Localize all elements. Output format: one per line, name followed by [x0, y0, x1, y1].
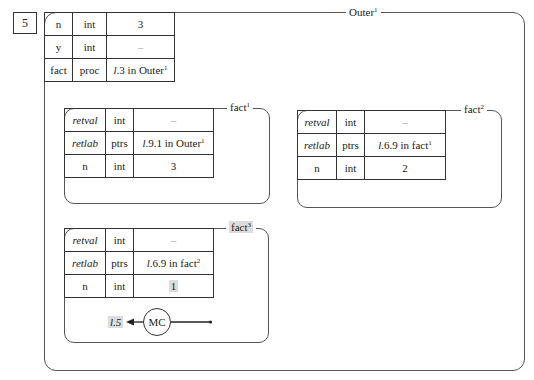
var-value: l.6.9 in fact1	[365, 134, 446, 157]
var-type: ptrs	[337, 134, 365, 157]
var-name: retlab	[65, 252, 106, 275]
var-value: 3	[134, 155, 214, 178]
frame-fact1-table: retval int – retlab ptrs l.9.1 in Outer1…	[64, 108, 214, 178]
var-type: int	[73, 36, 107, 59]
var-value: l.3 in Outer1	[107, 59, 175, 82]
var-name: y	[45, 36, 73, 59]
frame-fact3-table: retval int – retlab ptrs l.6.9 in fact2 …	[64, 228, 214, 298]
frame-fact2-table: retval int – retlab ptrs l.6.9 in fact1 …	[297, 110, 446, 180]
var-name: retval	[65, 229, 106, 252]
step-number: 5	[22, 16, 28, 31]
return-label: l.5	[108, 315, 123, 329]
table-row: fact proc l.3 in Outer1	[45, 59, 175, 82]
step-number-box: 5	[13, 12, 37, 34]
var-type: int	[106, 109, 134, 132]
var-value: l.9.1 in Outer1	[134, 132, 214, 155]
var-type: ptrs	[106, 252, 134, 275]
var-value: 2	[365, 157, 446, 180]
var-name: retval	[298, 111, 337, 134]
table-row: retlab ptrs l.9.1 in Outer1	[65, 132, 214, 155]
var-name: n	[298, 157, 337, 180]
var-type: int	[106, 155, 134, 178]
frame-fact1-label: fact1	[227, 101, 253, 113]
var-type: int	[337, 157, 365, 180]
mc-circle: MC	[143, 308, 171, 336]
table-row: retval int –	[298, 111, 446, 134]
frame-fact3-label: fact3	[226, 221, 256, 233]
left-arrowhead-icon	[126, 319, 134, 326]
table-row: y int –	[45, 36, 175, 59]
var-type: proc	[73, 59, 107, 82]
var-value: l.6.9 in fact2	[134, 252, 214, 275]
table-row: n int 3	[45, 13, 175, 36]
var-value: 3	[107, 13, 175, 36]
var-type: int	[106, 229, 134, 252]
var-name: retlab	[65, 132, 106, 155]
outer-frame-label: Outer1	[346, 6, 381, 18]
var-name: n	[45, 13, 73, 36]
var-value: –	[134, 229, 214, 252]
table-row: retval int –	[65, 109, 214, 132]
table-row: n int 2	[298, 157, 446, 180]
var-type: int	[106, 275, 134, 298]
table-row: retlab ptrs l.6.9 in fact2	[65, 252, 214, 275]
table-row: n int 1	[65, 275, 214, 298]
var-name: retlab	[298, 134, 337, 157]
outer-variable-table: n int 3 y int – fact proc l.3 in Outer1	[44, 12, 175, 82]
var-name: retval	[65, 109, 106, 132]
var-type: int	[337, 111, 365, 134]
var-name: n	[65, 275, 106, 298]
var-type: int	[73, 13, 107, 36]
var-value: –	[107, 36, 175, 59]
table-row: retlab ptrs l.6.9 in fact1	[298, 134, 446, 157]
frame-fact2-label: fact2	[461, 103, 487, 115]
var-value: –	[134, 109, 214, 132]
var-name: n	[65, 155, 106, 178]
var-value: –	[365, 111, 446, 134]
table-row: retval int –	[65, 229, 214, 252]
table-row: n int 3	[65, 155, 214, 178]
var-value: 1	[134, 275, 214, 298]
var-name: fact	[45, 59, 73, 82]
highlighted-value: 1	[169, 280, 179, 292]
var-type: ptrs	[106, 132, 134, 155]
arrow-end-dot-icon	[209, 320, 212, 323]
